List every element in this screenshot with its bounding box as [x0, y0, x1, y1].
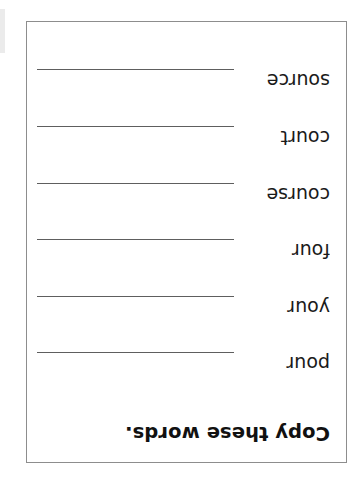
word-row: pour [27, 349, 346, 406]
word-label-pour: pour [246, 353, 330, 375]
word-list: pour your four course court source [27, 66, 346, 406]
word-row: your [27, 293, 346, 350]
writing-line [37, 69, 234, 70]
writing-line [37, 352, 234, 353]
writing-line [37, 126, 234, 127]
word-row: court [27, 123, 346, 180]
word-row: course [27, 180, 346, 237]
writing-line [37, 239, 234, 240]
writing-line [37, 296, 234, 297]
worksheet-title: Copy these words. [125, 422, 330, 445]
writing-line [37, 183, 234, 184]
page-content-rotated-180: Copy these words. pour your four course … [27, 22, 346, 462]
word-label-your: your [246, 297, 330, 319]
word-label-course: course [246, 184, 330, 206]
scan-edge-artifact [0, 9, 5, 53]
word-label-court: court [246, 127, 330, 149]
word-row: source [27, 66, 346, 123]
worksheet-page: Copy these words. pour your four course … [26, 21, 347, 463]
word-row: four [27, 236, 346, 293]
word-label-four: four [246, 240, 330, 262]
word-label-source: source [246, 70, 330, 92]
